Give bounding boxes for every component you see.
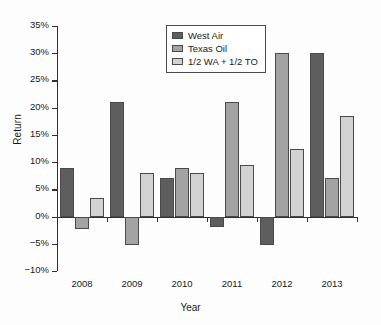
- legend-item: Texas Oil: [172, 42, 258, 55]
- y-axis-line: [57, 26, 58, 271]
- legend-item: West Air: [172, 29, 258, 42]
- bar: [260, 217, 275, 246]
- x-tick-mark: [107, 217, 108, 222]
- legend-label: 1/2 WA + 1/2 TO: [188, 56, 258, 67]
- legend-swatch-icon: [172, 58, 183, 65]
- bar: [60, 168, 75, 217]
- bar: [175, 168, 190, 217]
- bar: [110, 102, 125, 216]
- bar: [75, 217, 90, 229]
- x-tick-mark: [357, 217, 358, 222]
- x-tick-mark: [157, 217, 158, 222]
- y-tick-label: 20%: [30, 101, 49, 112]
- y-tick-mark: [52, 80, 57, 81]
- y-tick-label: −5%: [30, 237, 49, 248]
- bar: [225, 102, 240, 216]
- chart-figure: Return 35%30%25%20%15%10%5%0%−5%−10% 200…: [0, 0, 381, 325]
- y-tick-label: 30%: [30, 46, 49, 57]
- x-tick-mark: [257, 217, 258, 222]
- y-tick-label: 15%: [30, 128, 49, 139]
- y-tick-mark: [52, 135, 57, 136]
- bar: [290, 149, 305, 217]
- bar: [125, 217, 140, 246]
- y-tick-mark: [52, 271, 57, 272]
- bar: [210, 217, 225, 228]
- y-tick-label: 35%: [30, 19, 49, 30]
- y-tick-mark: [52, 244, 57, 245]
- bar: [160, 178, 175, 216]
- legend-item: 1/2 WA + 1/2 TO: [172, 55, 258, 68]
- y-tick-mark: [52, 162, 57, 163]
- y-tick-label: 5%: [35, 182, 49, 193]
- bar: [240, 165, 255, 217]
- bar: [310, 53, 325, 216]
- bar: [340, 116, 355, 217]
- legend-label: Texas Oil: [188, 43, 227, 54]
- y-tick-mark: [52, 189, 57, 190]
- x-tick-mark: [307, 217, 308, 222]
- bar: [190, 173, 205, 217]
- y-tick-label: −10%: [24, 264, 49, 275]
- x-tick-label: 2013: [302, 278, 362, 289]
- bar: [140, 173, 155, 217]
- bar: [275, 53, 290, 216]
- y-axis-label: Return: [12, 95, 23, 165]
- y-tick-label: 10%: [30, 155, 49, 166]
- x-tick-mark: [57, 217, 58, 222]
- bar: [90, 198, 105, 217]
- y-tick-label: 25%: [30, 73, 49, 84]
- y-tick-mark: [52, 26, 57, 27]
- bar: [325, 178, 340, 216]
- x-axis-label: Year: [0, 302, 381, 313]
- y-tick-mark: [52, 108, 57, 109]
- legend-label: West Air: [188, 30, 223, 41]
- legend-swatch-icon: [172, 45, 183, 52]
- y-tick-label: 0%: [35, 210, 49, 221]
- legend-swatch-icon: [172, 32, 183, 39]
- x-tick-mark: [207, 217, 208, 222]
- chart-legend: West AirTexas Oil1/2 WA + 1/2 TO: [166, 25, 266, 73]
- y-tick-mark: [52, 53, 57, 54]
